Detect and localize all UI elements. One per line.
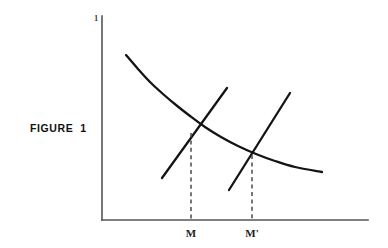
economics-supply-demand-chart: 1 M M' — [0, 0, 388, 248]
figure-container: FIGURE 1 1 M M' — [0, 0, 388, 248]
y-axis-unit-label: 1 — [94, 14, 98, 23]
x-axis-tick-label-m-prime: M' — [245, 227, 258, 239]
x-axis-tick-label-m: M — [186, 227, 197, 239]
supply-curve-second — [229, 93, 290, 190]
demand-curve — [126, 55, 322, 172]
